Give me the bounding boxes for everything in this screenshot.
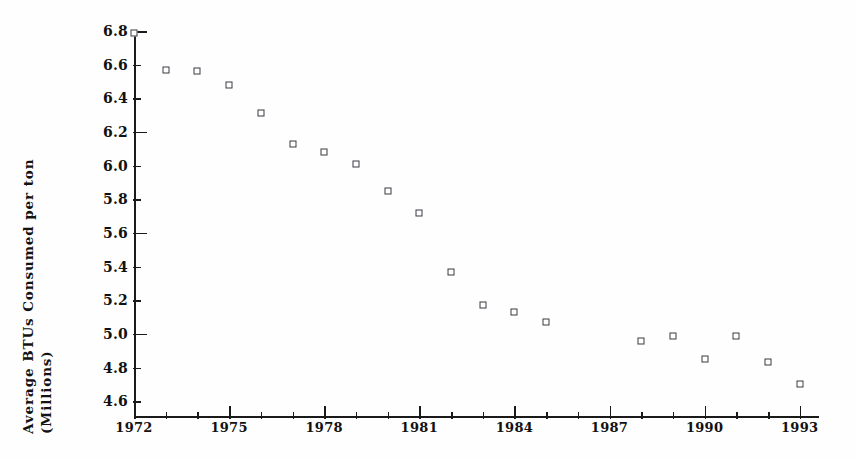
x-axis-line xyxy=(134,416,819,418)
data-point xyxy=(701,356,708,363)
y-tick-label: 5.4 xyxy=(103,259,128,275)
x-tick xyxy=(261,412,263,419)
data-point xyxy=(669,332,676,339)
data-point xyxy=(543,319,550,326)
data-point xyxy=(321,149,328,156)
x-tick xyxy=(641,412,643,419)
x-tick xyxy=(736,412,738,419)
x-tick-label: 1990 xyxy=(686,420,723,435)
x-tick xyxy=(800,406,802,419)
x-tick xyxy=(134,406,136,419)
y-tick xyxy=(133,132,147,134)
x-tick-label: 1972 xyxy=(115,420,152,435)
y-tick-label: 5.2 xyxy=(103,292,128,308)
x-tick-label: 1975 xyxy=(210,420,247,435)
x-tick xyxy=(578,412,580,419)
x-tick xyxy=(419,406,421,419)
data-point xyxy=(416,209,423,216)
x-tick-label: 1981 xyxy=(401,420,438,435)
data-point xyxy=(352,160,359,167)
y-axis-line xyxy=(134,31,136,418)
y-tick-label: 5.0 xyxy=(103,326,128,342)
data-point xyxy=(162,66,169,73)
y-tick-label: 4.8 xyxy=(103,360,128,376)
y-tick xyxy=(133,300,141,302)
y-tick xyxy=(133,401,141,403)
data-point xyxy=(733,332,740,339)
y-tick xyxy=(133,199,141,201)
y-axis-tick-labels: 6.86.66.46.26.05.85.65.45.25.04.84.6 xyxy=(0,31,128,418)
data-point xyxy=(226,81,233,88)
x-tick xyxy=(546,412,548,419)
x-tick xyxy=(705,406,707,419)
data-point xyxy=(796,381,803,388)
y-tick-label: 6.2 xyxy=(103,124,128,140)
chart-figure: Average BTUs Consumed per ton (Millions)… xyxy=(0,0,856,459)
x-tick xyxy=(166,412,168,419)
y-tick-label: 5.8 xyxy=(103,191,128,207)
y-tick-label: 5.6 xyxy=(103,225,128,241)
x-tick xyxy=(197,412,199,419)
y-tick-label: 6.0 xyxy=(103,158,128,174)
data-point xyxy=(765,359,772,366)
data-point xyxy=(479,302,486,309)
data-point xyxy=(511,308,518,315)
x-tick-label: 1987 xyxy=(591,420,628,435)
data-point xyxy=(289,140,296,147)
x-axis-tick-labels: 19721975197819811984198719901993 xyxy=(134,420,834,450)
x-tick-label: 1993 xyxy=(781,420,818,435)
x-tick xyxy=(514,406,516,419)
data-point xyxy=(384,187,391,194)
x-tick xyxy=(768,412,770,419)
y-tick xyxy=(133,98,141,100)
x-tick xyxy=(293,412,295,419)
data-point xyxy=(448,268,455,275)
x-tick xyxy=(673,412,675,419)
y-tick-label: 4.6 xyxy=(103,393,128,409)
x-tick xyxy=(483,412,485,419)
x-tick xyxy=(356,412,358,419)
data-point xyxy=(257,110,264,117)
x-tick xyxy=(451,412,453,419)
x-tick xyxy=(388,412,390,419)
plot-area xyxy=(134,31,819,418)
y-tick-label: 6.8 xyxy=(103,23,128,39)
x-tick-label: 1978 xyxy=(305,420,342,435)
y-tick xyxy=(133,166,141,168)
y-tick xyxy=(133,233,147,235)
x-tick-label: 1984 xyxy=(496,420,533,435)
y-tick-label: 6.6 xyxy=(103,57,128,73)
data-point xyxy=(131,29,138,36)
data-point xyxy=(638,337,645,344)
y-tick-label: 6.4 xyxy=(103,90,128,106)
y-tick xyxy=(133,65,141,67)
y-tick xyxy=(133,267,141,269)
y-tick xyxy=(133,368,141,370)
x-tick xyxy=(324,406,326,419)
y-tick xyxy=(133,334,147,336)
data-point xyxy=(194,68,201,75)
x-tick xyxy=(610,406,612,419)
x-tick xyxy=(229,406,231,419)
